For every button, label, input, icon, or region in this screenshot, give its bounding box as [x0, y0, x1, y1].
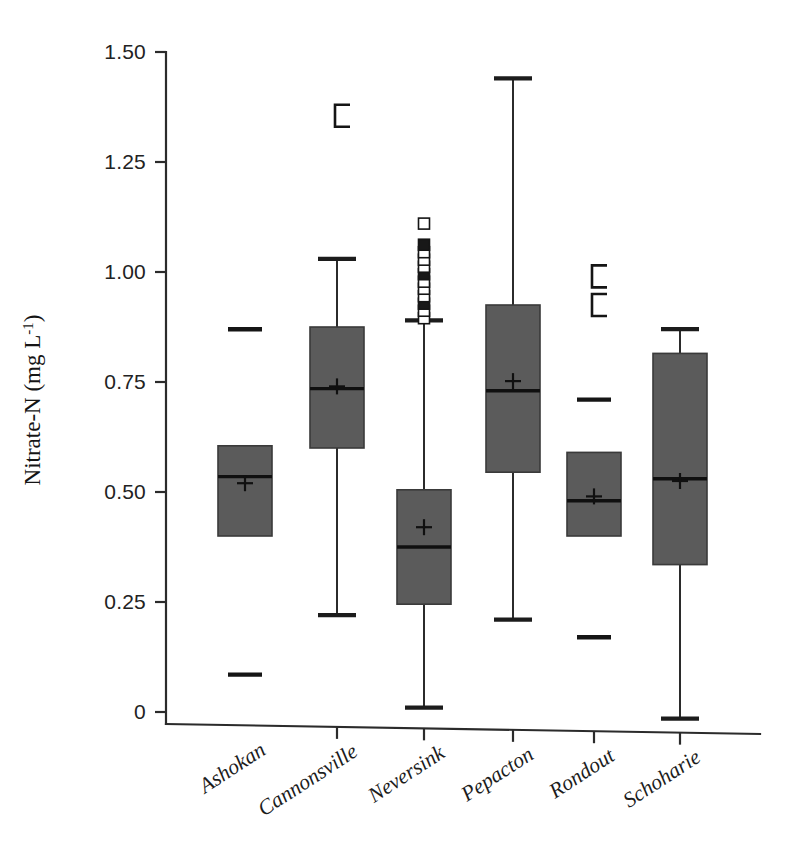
y-axis-tick-label: 0.50 — [104, 480, 146, 503]
figure-canvas: Nitrate-N (mg L-1) 00.250.500.751.001.25… — [0, 0, 788, 863]
x-axis-label-rondout: Rondout — [544, 743, 620, 804]
x-axis-line — [166, 724, 760, 734]
box-plot-neversink — [397, 218, 451, 707]
y-axis-tick-label: 1.50 — [104, 40, 146, 63]
x-axis-label-cannonsville: Cannonsville — [253, 739, 362, 821]
box-plot-pepacton — [486, 78, 540, 619]
outlier-square-marker — [419, 239, 430, 250]
box-plot-cannonsville — [310, 105, 364, 615]
x-axis-label-neversink: Neversink — [363, 740, 449, 808]
box-plot-rondout — [567, 265, 621, 637]
y-axis-tick-label: 0.75 — [104, 370, 146, 393]
x-tick-layer: AshokanCannonsvilleNeversinkPepactonRond… — [193, 727, 705, 821]
y-axis-tick-label: 0.25 — [104, 590, 146, 613]
outlier-square-marker — [419, 218, 430, 229]
x-axis-label-ashokan: Ashokan — [193, 737, 270, 799]
y-axis-tick-label: 1.25 — [104, 150, 146, 173]
y-tick-layer: 00.250.500.751.001.251.50 — [104, 40, 166, 723]
box-layer — [218, 78, 707, 718]
box-plot-ashokan — [218, 329, 272, 674]
box-iqr — [653, 353, 707, 564]
outlier-bracket-marker — [592, 294, 607, 316]
x-axis-label-pepacton: Pepacton — [456, 742, 538, 807]
y-axis-title-group: Nitrate-N (mg L-1) — [20, 315, 45, 486]
y-axis-tick-label: 1.00 — [104, 260, 146, 283]
outlier-bracket-marker — [592, 265, 607, 287]
y-axis-title: Nitrate-N (mg L-1) — [20, 315, 45, 486]
x-axis-label-schoharie: Schoharie — [619, 744, 706, 812]
box-plot-schoharie — [653, 329, 707, 718]
box-plot-chart: Nitrate-N (mg L-1) 00.250.500.751.001.25… — [0, 0, 788, 863]
y-axis-tick-label: 0 — [134, 700, 146, 723]
outlier-bracket-marker — [335, 105, 350, 127]
